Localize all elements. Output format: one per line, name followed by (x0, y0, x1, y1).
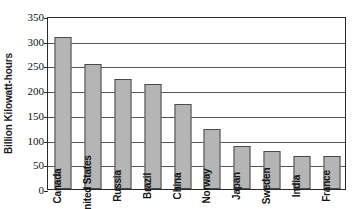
bar-category-label: Japan (232, 172, 242, 200)
y-axis-title: Billion Kilowatt-hours (0, 17, 18, 190)
bars-layer: CanadaUnited StatesRussiaBrazilChinaNorw… (48, 18, 345, 189)
bar-category-label: India (292, 175, 302, 197)
bar[interactable] (54, 37, 71, 189)
y-axis-tick-label: 0 (39, 185, 45, 196)
bar-group: China (168, 18, 198, 189)
bar-category-label: Russia (113, 170, 123, 202)
bar-category-label: France (322, 170, 332, 202)
bar-group: India (287, 18, 317, 189)
y-axis-tick-label: 150 (28, 110, 45, 121)
y-axis-tick-label: 250 (28, 61, 45, 72)
bar-chart: Billion Kilowatt-hours 35030025020015010… (0, 0, 355, 209)
bar-group: Japan (227, 18, 257, 189)
y-axis-tick-label: 50 (33, 160, 44, 171)
bar-category-label: United States (83, 155, 93, 209)
y-axis-title-label: Billion Kilowatt-hours (4, 53, 15, 154)
y-axis-tick-label: 200 (28, 86, 45, 97)
bar-category-label: China (173, 173, 183, 200)
bar-group: Norway (198, 18, 228, 189)
bar-category-label: Brazil (143, 173, 153, 199)
bar-group: United States (78, 18, 108, 189)
y-axis-tick-label: 300 (28, 36, 45, 47)
bar-group: France (317, 18, 347, 189)
bar-category-label: Canada (53, 169, 63, 204)
bar-category-label: Norway (202, 169, 212, 204)
y-axis-tick-mark (44, 191, 48, 192)
bar-category-label: Sweden (262, 168, 272, 205)
y-axis-tick-labels: 350300250200150100500 (18, 11, 46, 196)
bar-group: Canada (48, 18, 78, 189)
y-axis-tick-label: 350 (28, 12, 45, 23)
bar-group: Sweden (257, 18, 287, 189)
bar-group: Russia (108, 18, 138, 189)
bar-group: Brazil (138, 18, 168, 189)
plot-area: CanadaUnited StatesRussiaBrazilChinaNorw… (47, 17, 346, 190)
y-axis-tick-label: 100 (28, 135, 45, 146)
